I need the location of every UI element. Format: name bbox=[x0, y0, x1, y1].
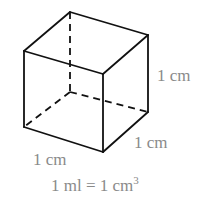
edge bbox=[24, 127, 103, 152]
equation-label: 1 ml = 1 cm3 bbox=[51, 177, 139, 194]
depth-label: 1 cm bbox=[134, 134, 168, 151]
edge bbox=[103, 35, 148, 74]
edge bbox=[24, 51, 103, 74]
hidden-edge bbox=[24, 92, 70, 127]
hidden-edge bbox=[70, 92, 148, 112]
edge bbox=[70, 12, 148, 35]
equation-text: 1 ml = 1 cm bbox=[51, 176, 133, 195]
equation-exponent: 3 bbox=[133, 174, 139, 186]
cube-diagram bbox=[0, 0, 213, 202]
height-label: 1 cm bbox=[157, 67, 191, 84]
edge bbox=[24, 12, 70, 51]
width-label: 1 cm bbox=[33, 151, 67, 168]
